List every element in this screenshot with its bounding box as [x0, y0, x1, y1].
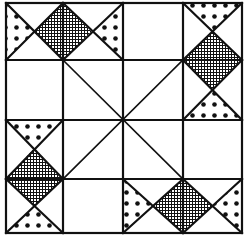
- hourglass-top-right: [183, 3, 242, 120]
- dotted-triangle: [183, 3, 242, 32]
- dotted-triangle: [92, 3, 124, 60]
- dotted-triangle: [6, 120, 63, 148]
- quilt-block-diagram: [0, 0, 246, 244]
- dotted-triangle: [183, 90, 242, 120]
- dotted-triangle: [6, 3, 35, 60]
- dotted-triangle: [123, 179, 153, 233]
- hourglass-top-left: [6, 3, 123, 60]
- dotted-triangle: [213, 179, 243, 233]
- dotted-triangle: [6, 206, 63, 233]
- crosshatch-diamond: [6, 148, 63, 206]
- hourglass-bottom-left: [6, 120, 63, 233]
